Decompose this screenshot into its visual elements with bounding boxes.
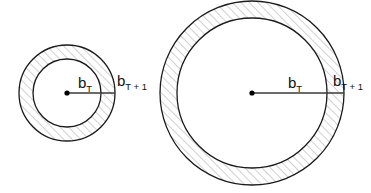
large-inner-radius-label-sub: T (296, 83, 302, 94)
large-inner-radius-label-base: b (288, 74, 296, 91)
annulus-diagram-svg: bT bT + 1 bT bT + 1 (0, 0, 371, 193)
large-outer-radius-label-sub: T + 1 (341, 81, 363, 92)
large-outer-radius-label-base: b (333, 72, 341, 89)
large-annulus-group: bT bT + 1 (0, 0, 371, 193)
diagram-canvas: bT bT + 1 bT bT + 1 (0, 0, 371, 193)
large-center-dot (249, 90, 254, 95)
